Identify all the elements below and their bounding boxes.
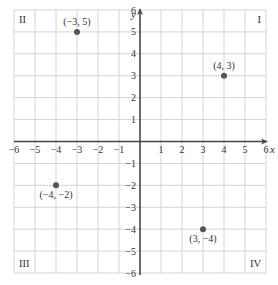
axes [14, 8, 268, 275]
y-tick-label: 6 [131, 5, 136, 16]
x-tick-label: 3 [201, 144, 206, 155]
x-tick-label: −6 [9, 144, 20, 155]
data-points: (−3, 5)(4, 3)(−4, −2)(3, −4) [40, 16, 235, 245]
x-tick-label: 2 [180, 144, 185, 155]
data-point [53, 182, 59, 188]
x-tick-label: −3 [72, 144, 83, 155]
x-tick-label: −2 [93, 144, 104, 155]
quadrant-label-ii: II [19, 14, 26, 25]
y-tick-label: −1 [125, 158, 136, 169]
point-label: (−3, 5) [63, 16, 90, 28]
coordinate-plane: xy−6−5−4−3−2−1123456654321−1−2−3−4−5−6 I… [0, 0, 278, 285]
data-point [74, 29, 80, 35]
x-tick-label: −5 [30, 144, 41, 155]
x-tick-label: 1 [159, 144, 164, 155]
quadrant-label-i: I [258, 14, 262, 25]
y-tick-label: 1 [131, 114, 136, 125]
y-tick-label: −5 [125, 246, 136, 257]
y-tick-label: −4 [125, 224, 136, 235]
data-point [221, 73, 227, 79]
y-tick-label: 5 [131, 26, 136, 37]
quadrant-label-iii: III [19, 258, 30, 269]
y-tick-label: 3 [131, 70, 136, 81]
y-tick-label: −2 [125, 180, 136, 191]
point-label: (−4, −2) [40, 189, 73, 201]
x-tick-label: −4 [51, 144, 62, 155]
point-label: (3, −4) [189, 233, 216, 245]
y-tick-label: 4 [131, 48, 136, 59]
data-point [200, 226, 206, 232]
x-tick-label: −1 [114, 144, 125, 155]
x-tick-label: 4 [222, 144, 227, 155]
x-axis-label: x [269, 143, 275, 155]
y-tick-label: −6 [125, 268, 136, 279]
y-tick-label: −3 [125, 202, 136, 213]
y-tick-label: 2 [131, 92, 136, 103]
x-tick-label: 6 [264, 144, 269, 155]
x-tick-label: 5 [243, 144, 248, 155]
quadrant-label-iv: IV [250, 258, 261, 269]
point-label: (4, 3) [213, 60, 235, 72]
